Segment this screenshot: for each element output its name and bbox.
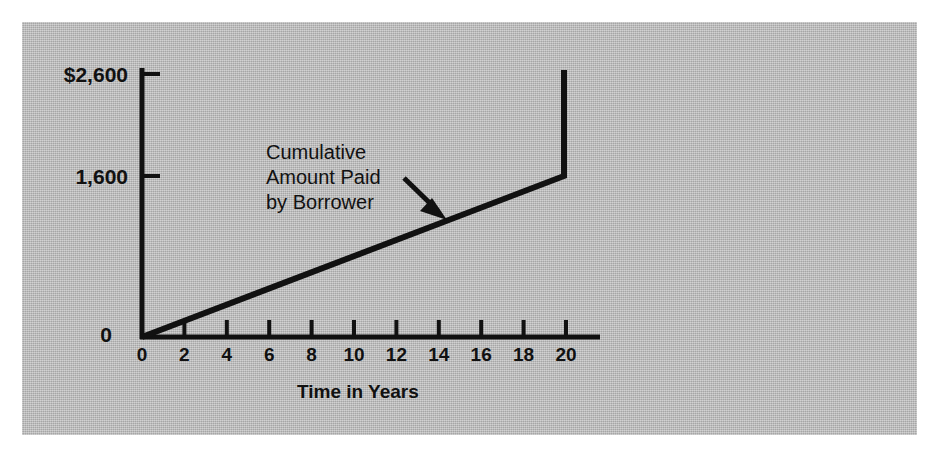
x-tick-label-12: 12 [386,345,407,364]
y-tick-label-top: $2,600 [52,64,128,85]
x-tick-label-20: 20 [555,345,576,364]
x-tick-label-14: 14 [428,345,449,364]
x-tick-label-6: 6 [264,345,275,364]
annotation-line-1: Cumulative [266,142,366,162]
x-tick-label-4: 4 [222,345,233,364]
y-tick-label-mid: 1,600 [52,166,128,187]
x-tick-label-8: 8 [306,345,317,364]
x-tick-label-2: 2 [179,345,190,364]
x-tick-marks [184,320,566,337]
annotation-line-2: Amount Paid [266,167,381,187]
annotation-arrow-icon [404,178,447,220]
x-tick-label-16: 16 [471,345,492,364]
annotation-line-3: by Borrower [266,192,374,212]
chart-plot-area [0,0,937,462]
chart-figure: $2,600 1,600 0 0 2 4 6 8 10 12 14 16 18 … [0,0,937,462]
y-tick-label-zero: 0 [52,324,112,345]
x-axis-title: Time in Years [297,382,419,401]
x-tick-label-18: 18 [513,345,534,364]
x-tick-label-10: 10 [343,345,364,364]
x-tick-label-0: 0 [137,345,148,364]
